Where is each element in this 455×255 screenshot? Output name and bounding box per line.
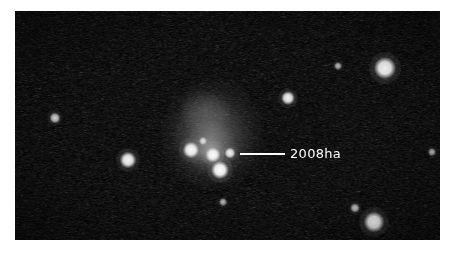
annotation-leader-line xyxy=(240,153,285,155)
supernova-label: 2008ha xyxy=(290,147,341,160)
sky-noise-layer xyxy=(15,11,440,240)
sky-image-frame xyxy=(15,11,440,240)
astronomical-figure: 2008ha xyxy=(0,0,455,255)
